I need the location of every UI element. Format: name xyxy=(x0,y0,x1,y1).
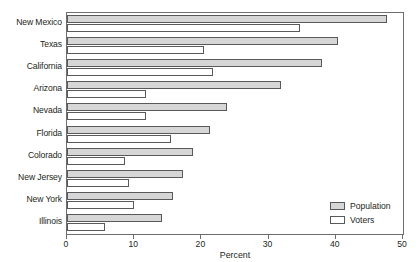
x-tick-label: 10 xyxy=(128,239,138,249)
legend-label: Population xyxy=(350,201,391,211)
x-tick-label: 20 xyxy=(196,239,206,249)
x-axis-title: Percent xyxy=(66,250,404,261)
bar-voters xyxy=(67,112,146,120)
bar-voters xyxy=(67,46,204,54)
bar-voters xyxy=(67,135,171,143)
bar-population xyxy=(67,214,162,222)
x-tick-label: 40 xyxy=(330,239,340,249)
category-label: Illinois xyxy=(0,217,62,226)
category-label: Arizona xyxy=(0,84,62,93)
bar-population xyxy=(67,103,227,111)
bar-population xyxy=(67,170,183,178)
x-tick-label: 30 xyxy=(263,239,273,249)
category-label: New Mexico xyxy=(0,18,62,27)
category-label: Florida xyxy=(0,129,62,138)
legend-swatch-population xyxy=(330,202,345,210)
bar-population xyxy=(67,37,338,45)
x-tick-label: 50 xyxy=(397,239,407,249)
category-axis-labels: New MexicoTexasCaliforniaArizonaNevadaFl… xyxy=(0,12,62,235)
category-label: New York xyxy=(0,195,62,204)
legend-swatch-voters xyxy=(330,216,345,224)
legend-item-population: Population xyxy=(330,200,404,212)
category-label: Nevada xyxy=(0,106,62,115)
bar-voters xyxy=(67,223,105,231)
bar-population xyxy=(67,59,322,67)
category-label: California xyxy=(0,62,62,71)
legend-label: Voters xyxy=(350,215,374,225)
bar-population xyxy=(67,81,281,89)
category-label: Colorado xyxy=(0,151,62,160)
bar-voters xyxy=(67,90,146,98)
bar-population xyxy=(67,126,210,134)
category-label: New Jersey xyxy=(0,173,62,182)
bar-population xyxy=(67,15,387,23)
category-label: Texas xyxy=(0,40,62,49)
x-tick-label: 0 xyxy=(64,239,69,249)
bar-voters xyxy=(67,201,134,209)
bar-voters xyxy=(67,68,213,76)
horizontal-bar-chart: New MexicoTexasCaliforniaArizonaNevadaFl… xyxy=(0,0,418,262)
bar-voters xyxy=(67,24,300,32)
bar-voters xyxy=(67,157,125,165)
bar-voters xyxy=(67,179,129,187)
bar-population xyxy=(67,148,193,156)
legend-item-voters: Voters xyxy=(330,214,404,226)
bar-population xyxy=(67,192,173,200)
chart-legend: PopulationVoters xyxy=(330,200,404,228)
